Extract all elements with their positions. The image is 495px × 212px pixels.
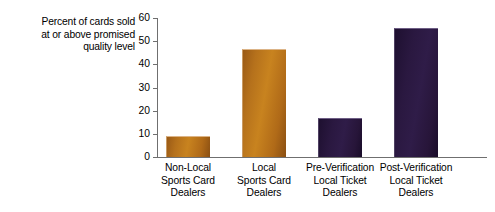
y-tick-label: 10 [139, 127, 150, 140]
y-tick-mark [153, 18, 158, 19]
y-tick-60: 60 [157, 18, 158, 19]
y-tick-label: 60 [139, 11, 150, 24]
y-tick-label: 20 [139, 104, 150, 117]
category-line-2: Local Ticket [371, 175, 461, 188]
y-tick-0: 0 [157, 157, 158, 158]
bar-non-local-sports-card-dealers [166, 136, 210, 157]
y-tick-mark [153, 157, 158, 158]
y-tick-label: 50 [139, 34, 150, 47]
y-tick-10: 10 [157, 134, 158, 135]
y-tick-40: 40 [157, 64, 158, 65]
y-tick-mark [153, 88, 158, 89]
bar-local-sports-card-dealers [242, 49, 286, 157]
y-axis-caption-line-3: quality level [8, 41, 135, 54]
y-axis-caption-line-1: Percent of cards sold [8, 16, 135, 29]
y-tick-50: 50 [157, 41, 158, 42]
y-tick-label: 40 [139, 57, 150, 70]
y-tick-30: 30 [157, 88, 158, 89]
y-tick-mark [153, 134, 158, 135]
bar-chart-figure: Percent of cards sold at or above promis… [0, 0, 495, 212]
y-axis-caption: Percent of cards sold at or above promis… [8, 16, 135, 54]
y-tick-label: 30 [139, 81, 150, 94]
y-tick-mark [153, 111, 158, 112]
bar-pre-verification-local-ticket-dealers [318, 118, 362, 157]
bar-post-verification-local-ticket-dealers [394, 28, 438, 157]
y-tick-mark [153, 41, 158, 42]
category-line-3: Dealers [371, 187, 461, 200]
y-tick-20: 20 [157, 111, 158, 112]
category-line-1: Post-Verification [371, 162, 461, 175]
y-tick-mark [153, 64, 158, 65]
x-axis-line [157, 157, 487, 158]
y-axis-caption-line-2: at or above promised [8, 29, 135, 42]
plot-area: 60 50 40 30 20 10 0 Non- [157, 18, 487, 157]
x-category-label-post-verification-local-ticket-dealers: Post-Verification Local Ticket Dealers [371, 162, 461, 200]
